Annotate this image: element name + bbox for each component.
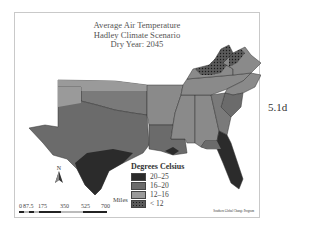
swatch-12-16	[131, 191, 146, 199]
legend-item-lt12: < 12	[131, 199, 184, 208]
legend-label: < 12	[150, 199, 164, 208]
scale-unit: Miles	[113, 196, 128, 203]
scale-tick: 0	[19, 203, 22, 209]
scale-tick: 350	[60, 203, 69, 209]
scale-tick: 525	[81, 203, 90, 209]
scale-bar: Miles 0 87.5 175 350 525 700	[19, 200, 139, 211]
north-arrow: N	[55, 165, 63, 184]
credit: Southern Global Change Program	[213, 209, 254, 213]
legend: Degrees Celsius 20–25 16–20 12–16 < 12	[131, 162, 184, 208]
scale-labels: 0 87.5 175 350 525 700	[19, 203, 139, 211]
swatch-16-20	[131, 182, 146, 190]
legend-item-12-16: 12–16	[131, 190, 184, 199]
legend-item-20-25: 20–25	[131, 172, 184, 181]
legend-item-16-20: 16–20	[131, 181, 184, 190]
legend-label: 12–16	[150, 190, 169, 199]
scale-tick: 175	[38, 203, 47, 209]
scale-tick: 87.5	[23, 203, 34, 209]
scale-tick: 700	[101, 203, 110, 209]
north-arrow-icon	[55, 171, 63, 183]
legend-label: 20–25	[150, 172, 169, 181]
figure-label: 5.1d	[268, 101, 287, 113]
legend-label: 16–20	[150, 181, 169, 190]
swatch-20-25	[131, 173, 146, 181]
legend-title: Degrees Celsius	[131, 162, 184, 171]
map-frame: Average Air Temperature Hadley Climate S…	[14, 12, 260, 218]
